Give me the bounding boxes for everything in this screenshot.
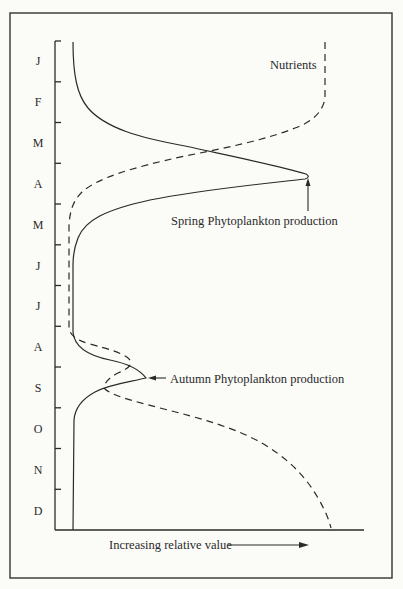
phytoplankton-curve [73, 42, 308, 530]
autumn-production-label: Autumn Phytoplankton production [170, 372, 345, 386]
month-label-sep: S [35, 381, 42, 395]
month-label-dec: D [34, 504, 43, 518]
month-label-mar: M [33, 136, 44, 150]
x-axis-arrow-head-icon [299, 542, 309, 548]
autumn-arrow-head-icon [148, 376, 156, 381]
x-axis-label: Increasing relative value [109, 538, 232, 552]
month-label-nov: N [34, 463, 43, 477]
figure-frame [10, 13, 392, 578]
month-label-oct: O [34, 422, 43, 436]
month-label-apr: A [34, 177, 43, 191]
nutrients-label: Nutrients [270, 58, 317, 72]
month-label-jul: J [36, 299, 41, 313]
month-label-feb: F [35, 95, 42, 109]
month-label-jan: J [36, 54, 41, 68]
month-label-may: M [33, 218, 44, 232]
nutrients-curve [69, 42, 331, 528]
spring-production-label: Spring Phytoplankton production [171, 214, 338, 228]
y-axis-ticks [55, 41, 61, 489]
chart: J F M A M J J A S O N D Nutrients Spring… [0, 0, 403, 589]
spring-arrow-head-icon [306, 178, 311, 186]
month-label-jun: J [36, 259, 41, 273]
month-labels: J F M A M J J A S O N D [33, 54, 44, 518]
month-label-aug: A [34, 340, 43, 354]
